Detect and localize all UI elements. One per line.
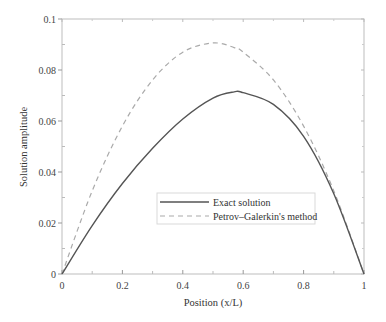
y-tick-label: 0.06 <box>39 116 57 127</box>
series-layer <box>62 43 364 274</box>
y-tick-label: 0.04 <box>39 167 57 178</box>
x-tick-label: 1 <box>362 280 367 291</box>
x-tick-label: 0.8 <box>297 280 310 291</box>
x-tick-label: 0 <box>60 280 65 291</box>
y-tick-label: 0.02 <box>39 218 57 229</box>
y-tick-label: 0.1 <box>44 14 57 25</box>
x-axis-title: Position (x/L) <box>184 297 243 309</box>
x-tick-label: 0.6 <box>237 280 250 291</box>
x-axis: 00.20.40.60.81 <box>60 19 367 291</box>
y-axis: 00.020.040.060.080.1 <box>39 14 365 280</box>
y-tick-label: 0.08 <box>39 65 57 76</box>
series-petrov-galerkin-line <box>62 43 364 274</box>
legend: Exact solution Petrov–Galerkin's method <box>157 193 317 224</box>
legend-label-exact: Exact solution <box>213 197 271 208</box>
x-tick-label: 0.2 <box>116 280 129 291</box>
legend-label-petrov-galerkin: Petrov–Galerkin's method <box>213 211 317 222</box>
plot-area-border <box>62 19 364 274</box>
series-exact-solution-line <box>62 91 364 274</box>
x-tick-label: 0.4 <box>177 280 190 291</box>
chart: 00.020.040.060.080.1 00.20.40.60.81 Posi… <box>0 0 386 322</box>
plot-frame <box>62 19 364 274</box>
y-axis-title: Solution amplitude <box>18 107 29 188</box>
y-tick-label: 0 <box>51 269 56 280</box>
